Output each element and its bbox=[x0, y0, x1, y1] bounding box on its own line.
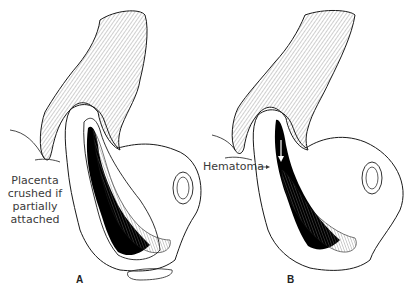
panel-label-b: B bbox=[287, 274, 294, 285]
hand-b bbox=[232, 10, 355, 153]
panel-label-a: A bbox=[76, 274, 83, 285]
figure: Placenta crushed if partially attached H… bbox=[0, 0, 419, 303]
placenta-annotation: Placenta crushed if partially attached bbox=[4, 174, 66, 226]
annotation-line: attached bbox=[4, 213, 66, 226]
panel-a-drawing bbox=[10, 11, 201, 280]
annotation-line: Placenta bbox=[4, 174, 66, 187]
hematoma-label: Hematoma bbox=[203, 160, 264, 173]
annotation-line: crushed if bbox=[4, 187, 66, 200]
panel-b-drawing bbox=[212, 10, 403, 270]
annotation-line: partially bbox=[4, 200, 66, 213]
illustration bbox=[0, 0, 419, 303]
